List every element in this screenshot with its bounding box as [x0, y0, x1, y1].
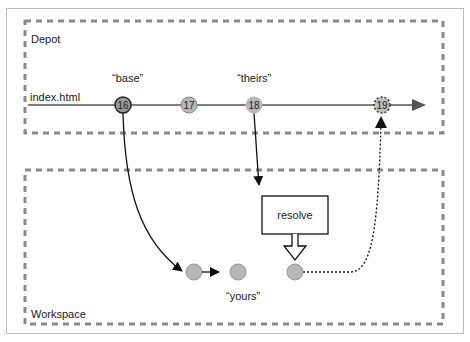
base-tag: “base”: [112, 72, 144, 84]
theirs-tag: “theirs”: [237, 72, 272, 84]
merge-arrowhead-icon: [375, 116, 387, 128]
svg-text:16: 16: [117, 100, 129, 111]
revision-node-17[interactable]: 17: [181, 97, 197, 113]
svg-text:17: 17: [183, 100, 195, 111]
workspace-node-yours[interactable]: [230, 264, 246, 280]
yours-tag: “yours”: [226, 290, 261, 302]
svg-text:resolve: resolve: [277, 209, 312, 221]
workspace-node-1[interactable]: [186, 264, 202, 280]
svg-text:19: 19: [376, 100, 388, 111]
theirs-to-resolve-curve: [254, 113, 259, 185]
revision-node-16[interactable]: 16: [115, 97, 131, 113]
file-label: index.html: [30, 91, 80, 103]
workspace-node-merged[interactable]: [287, 264, 303, 280]
base-to-workspace-curve: [123, 113, 182, 271]
resolve-output-arrow-icon: [284, 234, 306, 260]
resolve-box[interactable]: resolve: [262, 196, 328, 234]
svg-text:18: 18: [248, 100, 260, 111]
timeline-arrowhead-icon: [412, 99, 426, 111]
diagram-canvas: Depot Workspace index.html “base” “their…: [0, 0, 470, 342]
revision-node-19[interactable]: 19: [374, 97, 390, 113]
workspace-label: Workspace: [31, 308, 86, 320]
depot-label: Depot: [31, 33, 60, 45]
revision-node-18[interactable]: 18: [246, 97, 262, 113]
depot-zone: [25, 21, 443, 133]
